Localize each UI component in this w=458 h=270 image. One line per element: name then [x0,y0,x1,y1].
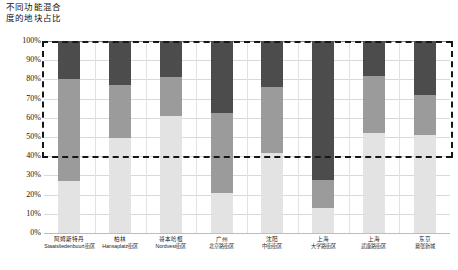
x-axis-label: 阿姆斯特丹Staatsliedenbuurt街区 [44,236,95,250]
bar-segment-medium-mix[interactable] [109,85,131,138]
x-axis-label-district: 中街街区 [247,243,298,250]
y-axis-tick-label: 40% [1,152,41,160]
bar-segment-medium-mix[interactable] [58,79,80,181]
x-axis-label-city: 柏林 [95,236,146,243]
reference-line-40 [42,156,452,158]
x-axis-label-district: 大学路街区 [298,243,349,250]
plot-area [44,41,450,233]
bar-group[interactable] [95,41,146,233]
stacked-bar[interactable] [414,41,436,233]
x-axis-label: 哥本哈根Nordvest街区 [146,236,197,250]
x-axis-label: 沈阳中街街区 [247,236,298,250]
x-axis-label-district: 武康路街区 [349,243,400,250]
bar-group[interactable] [399,41,450,233]
bar-segment-low-mix[interactable] [211,193,233,233]
y-axis-tick-label: 20% [1,191,41,199]
bar-group[interactable] [247,41,298,233]
dashed-frame-left [42,41,44,158]
bar-segment-medium-mix[interactable] [261,87,283,153]
bar-segment-high-mix[interactable] [363,41,385,76]
x-axis-label-city: 阿姆斯特丹 [44,236,95,243]
x-axis-label: 柏林Hansaplatz街区 [95,236,146,250]
stacked-bar[interactable] [109,41,131,233]
bar-segment-high-mix[interactable] [414,41,436,95]
bar-segment-medium-mix[interactable] [363,76,385,134]
y-axis-tick-label: 0% [1,229,41,237]
bar-segment-low-mix[interactable] [160,116,182,233]
bar-segment-low-mix[interactable] [312,208,334,233]
y-axis-tick-label: 50% [1,133,41,141]
bar-segment-high-mix[interactable] [109,41,131,85]
bar-segment-high-mix[interactable] [160,41,182,77]
x-axis-label: 广州北京路街区 [196,236,247,250]
bar-group[interactable] [146,41,197,233]
x-axis-label-city: 广州 [196,236,247,243]
bar-segment-high-mix[interactable] [211,41,233,113]
chart-root: 不同功能混合 度的地块占比 0%10%20%30%40%50%60%70%80%… [0,0,458,270]
x-axis-label-city: 沈阳 [247,236,298,243]
gridline [44,233,450,234]
stacked-bar[interactable] [312,41,334,233]
x-axis: 阿姆斯特丹Staatsliedenbuurt街区柏林Hansaplatz街区哥本… [44,236,450,268]
x-axis-label-city: 东京 [399,236,450,243]
bar-segment-medium-mix[interactable] [160,77,182,115]
stacked-bar[interactable] [58,41,80,233]
plot-inner [44,41,450,233]
y-axis-tick-label: 90% [1,56,41,64]
bar-group[interactable] [196,41,247,233]
x-axis-label: 东京幕张新城 [399,236,450,250]
stacked-bar[interactable] [160,41,182,233]
bar-segment-low-mix[interactable] [109,138,131,233]
bar-segment-medium-mix[interactable] [312,180,334,208]
stacked-bar[interactable] [261,41,283,233]
bar-group[interactable] [349,41,400,233]
x-axis-label: 上海武康路街区 [349,236,400,250]
x-axis-label-city: 上海 [298,236,349,243]
x-axis-label-district: 幕张新城 [399,243,450,250]
y-axis-tick-label: 60% [1,114,41,122]
bar-segment-high-mix[interactable] [58,41,80,79]
y-axis: 0%10%20%30%40%50%60%70%80%90%100% [0,41,41,233]
y-axis-tick-label: 30% [1,171,41,179]
x-axis-label-city: 上海 [349,236,400,243]
stacked-bar[interactable] [211,41,233,233]
x-axis-label: 上海大学路街区 [298,236,349,250]
bar-group[interactable] [298,41,349,233]
bar-segment-medium-mix[interactable] [414,95,436,135]
x-axis-label-district: Staatsliedenbuurt街区 [44,243,95,250]
y-axis-tick-label: 100% [1,37,41,45]
x-axis-label-district: Hansaplatz街区 [95,243,146,250]
dashed-frame-top [42,41,452,43]
bar-segment-medium-mix[interactable] [211,113,233,193]
bar-segment-low-mix[interactable] [58,181,80,233]
x-axis-label-city: 哥本哈根 [146,236,197,243]
y-axis-tick-label: 10% [1,210,41,218]
y-axis-tick-label: 70% [1,95,41,103]
bar-group[interactable] [44,41,95,233]
x-axis-label-district: Nordvest街区 [146,243,197,250]
bar-segment-low-mix[interactable] [414,135,436,233]
bar-segment-low-mix[interactable] [261,153,283,233]
stacked-bar[interactable] [363,41,385,233]
bar-segment-high-mix[interactable] [312,41,334,180]
bar-segment-low-mix[interactable] [363,133,385,233]
dashed-frame-right [451,41,453,158]
bar-segment-high-mix[interactable] [261,41,283,87]
x-axis-label-district: 北京路街区 [196,243,247,250]
chart-title: 不同功能混合 度的地块占比 [6,2,61,24]
y-axis-tick-label: 80% [1,75,41,83]
